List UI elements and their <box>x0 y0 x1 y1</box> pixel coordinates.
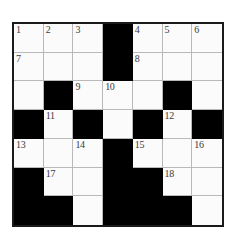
clue-number: 13 <box>16 139 25 151</box>
clue-number: 1 <box>16 24 21 36</box>
letter-cell[interactable]: 16 <box>192 139 222 168</box>
letter-cell[interactable]: 7 <box>14 53 44 82</box>
letter-cell[interactable] <box>103 110 133 139</box>
letter-cell[interactable]: 8 <box>133 53 163 82</box>
letter-cell[interactable]: 5 <box>163 24 193 53</box>
clue-number: 2 <box>46 24 51 36</box>
letter-cell[interactable]: 1 <box>14 24 44 53</box>
block-cell <box>133 110 163 139</box>
clue-number: 18 <box>165 168 174 180</box>
letter-cell[interactable] <box>163 53 193 82</box>
clue-number: 11 <box>46 110 55 122</box>
letter-cell[interactable] <box>192 81 222 110</box>
block-cell <box>103 168 133 197</box>
letter-cell[interactable]: 11 <box>44 110 74 139</box>
clue-number: 17 <box>46 168 55 180</box>
clue-number: 7 <box>16 53 21 65</box>
block-cell <box>133 168 163 197</box>
letter-cell[interactable]: 3 <box>73 24 103 53</box>
block-cell <box>14 196 44 225</box>
letter-cell[interactable] <box>133 81 163 110</box>
block-cell <box>14 168 44 197</box>
block-cell <box>44 81 74 110</box>
letter-cell[interactable] <box>192 196 222 225</box>
crossword-grid: 123456789101112131415161718 <box>14 24 222 225</box>
clue-number: 14 <box>75 139 84 151</box>
letter-cell[interactable] <box>73 168 103 197</box>
letter-cell[interactable]: 9 <box>73 81 103 110</box>
letter-cell[interactable] <box>192 168 222 197</box>
clue-number: 9 <box>75 81 80 93</box>
block-cell <box>163 81 193 110</box>
clue-number: 3 <box>75 24 80 36</box>
crossword-puzzle: 123456789101112131415161718 <box>12 22 224 227</box>
block-cell <box>44 196 74 225</box>
letter-cell[interactable]: 12 <box>163 110 193 139</box>
block-cell <box>103 53 133 82</box>
letter-cell[interactable] <box>14 81 44 110</box>
letter-cell[interactable]: 13 <box>14 139 44 168</box>
letter-cell[interactable]: 10 <box>103 81 133 110</box>
letter-cell[interactable]: 14 <box>73 139 103 168</box>
clue-number: 5 <box>165 24 170 36</box>
block-cell <box>103 196 133 225</box>
letter-cell[interactable]: 2 <box>44 24 74 53</box>
letter-cell[interactable]: 17 <box>44 168 74 197</box>
clue-number: 8 <box>135 53 140 65</box>
letter-cell[interactable]: 4 <box>133 24 163 53</box>
block-cell <box>163 196 193 225</box>
block-cell <box>103 24 133 53</box>
block-cell <box>192 110 222 139</box>
letter-cell[interactable] <box>163 139 193 168</box>
clue-number: 16 <box>194 139 203 151</box>
clue-number: 4 <box>135 24 140 36</box>
letter-cell[interactable] <box>192 53 222 82</box>
block-cell <box>14 110 44 139</box>
letter-cell[interactable]: 6 <box>192 24 222 53</box>
clue-number: 15 <box>135 139 144 151</box>
letter-cell[interactable] <box>44 53 74 82</box>
clue-number: 12 <box>165 110 174 122</box>
clue-number: 10 <box>105 81 114 93</box>
block-cell <box>133 196 163 225</box>
letter-cell[interactable]: 15 <box>133 139 163 168</box>
block-cell <box>73 110 103 139</box>
clue-number: 6 <box>194 24 199 36</box>
letter-cell[interactable] <box>73 196 103 225</box>
letter-cell[interactable] <box>73 53 103 82</box>
letter-cell[interactable] <box>44 139 74 168</box>
letter-cell[interactable]: 18 <box>163 168 193 197</box>
block-cell <box>103 139 133 168</box>
